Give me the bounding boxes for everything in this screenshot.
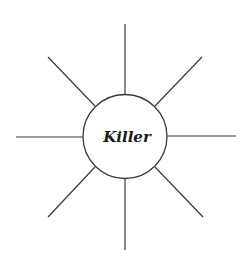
ray-bottom-right	[155, 167, 203, 217]
center-label: Killer	[102, 128, 152, 146]
spider-diagram: Killer	[0, 0, 249, 274]
ray-top-left	[48, 57, 95, 106]
ray-top-right	[155, 57, 202, 106]
ray-bottom-left	[48, 167, 95, 217]
